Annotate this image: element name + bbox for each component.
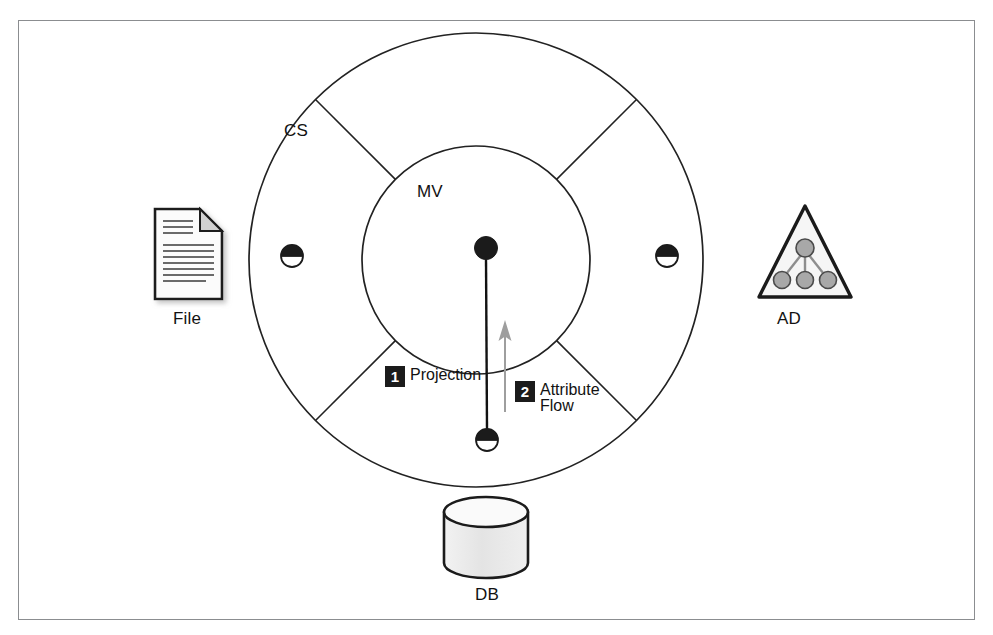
connector-space-label: CS (284, 121, 308, 141)
connector-space-object-left (281, 245, 303, 267)
spoke-upper-right (557, 100, 637, 180)
diagram-graphics (0, 0, 993, 635)
spoke-upper-left (316, 100, 396, 180)
database-source-label: DB (475, 585, 499, 605)
spoke-lower-left (316, 341, 396, 421)
callout-label-projection: Projection (410, 366, 481, 383)
connector-space-object-right (656, 245, 678, 267)
triangle-tree-icon (759, 206, 851, 297)
figure-canvas: CS MV File AD DB 1 Projection 2 Attribut… (0, 0, 993, 635)
tree-node-child-2 (797, 272, 814, 289)
tree-node-root (796, 239, 814, 257)
document-icon (155, 209, 222, 299)
connector-space-object-bottom (476, 429, 498, 451)
tree-node-child-3 (820, 272, 837, 289)
callout-badge-1: 1 (385, 366, 405, 387)
callout-badge-2: 2 (515, 381, 535, 402)
metaverse-label: MV (417, 182, 443, 202)
active-directory-source-label: AD (777, 309, 801, 329)
tree-node-child-1 (774, 272, 791, 289)
projection-line (486, 259, 487, 429)
callout-projection: 1 Projection (385, 366, 481, 387)
metaverse-circle (362, 146, 590, 374)
file-source-label: File (173, 309, 201, 329)
callout-attribute-flow: 2 Attribute Flow (515, 381, 610, 415)
database-cylinder-icon (444, 497, 528, 578)
metaverse-object (475, 237, 498, 260)
callout-label-attribute-flow: Attribute Flow (540, 381, 610, 415)
